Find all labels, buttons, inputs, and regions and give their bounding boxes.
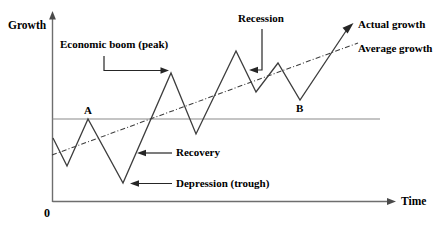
business-cycle-diagram: Growth Time 0 Actual growth Average grow… — [0, 0, 441, 228]
y-axis-arrowhead — [49, 11, 56, 20]
actual-growth-line — [53, 28, 348, 183]
recession-annotation-leader — [249, 29, 262, 73]
annotation-recession-label: Recession — [238, 13, 284, 24]
recession-leader-arrowhead — [249, 67, 258, 74]
legend-actual-growth-label: Actual growth — [358, 19, 425, 30]
x-axis — [53, 198, 397, 205]
point-marker-b: B — [296, 103, 303, 114]
legend-average-growth-label: Average growth — [358, 43, 432, 54]
boom-leader-path — [104, 56, 162, 71]
point-marker-a: A — [84, 105, 92, 116]
annotation-recovery-label: Recovery — [176, 147, 220, 158]
origin-label: 0 — [44, 207, 50, 219]
recession-leader-path — [257, 29, 262, 70]
boom-leader-arrowhead — [161, 67, 170, 74]
x-axis-arrowhead — [387, 198, 396, 205]
actual-growth-arrowhead — [343, 23, 354, 33]
y-axis-label: Growth — [8, 20, 46, 32]
depression-annotation-leader — [130, 180, 172, 187]
annotation-depression-label: Depression (trough) — [176, 178, 269, 189]
boom-annotation-leader — [104, 56, 169, 74]
annotation-boom-label: Economic boom (peak) — [60, 39, 168, 50]
x-axis-label: Time — [401, 196, 426, 208]
recovery-annotation-leader — [137, 150, 172, 157]
y-axis — [49, 11, 56, 202]
business-cycle-chart-canvas — [0, 0, 441, 228]
depression-leader-arrowhead — [130, 180, 139, 187]
recovery-leader-arrowhead — [137, 150, 146, 157]
